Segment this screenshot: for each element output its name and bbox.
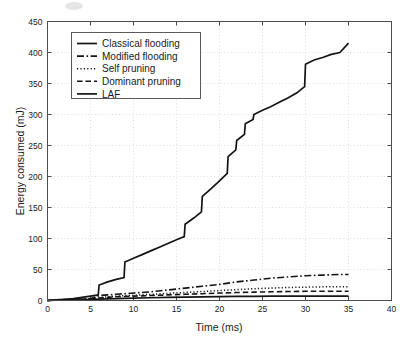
chart-figure: 0510152025303540 05010015020025030035040… bbox=[0, 0, 414, 338]
y-tick-label: 0 bbox=[38, 296, 43, 306]
y-tick-label: 200 bbox=[28, 172, 42, 182]
legend-label: Classical flooding bbox=[102, 38, 180, 49]
x-axis-title: Time (ms) bbox=[196, 321, 243, 333]
x-tick-label: 30 bbox=[301, 304, 311, 314]
x-tick-label: 0 bbox=[45, 304, 50, 314]
scan-artifact bbox=[65, 2, 83, 10]
x-tick-label: 25 bbox=[258, 304, 268, 314]
x-tick-label: 15 bbox=[172, 304, 182, 314]
legend-label: Self pruning bbox=[102, 63, 155, 74]
x-tick-label: 40 bbox=[387, 304, 397, 314]
figure-background bbox=[0, 0, 414, 338]
y-axis-title: Energy consumed (mJ) bbox=[14, 107, 26, 216]
legend-label: LAF bbox=[102, 89, 120, 100]
y-tick-label: 250 bbox=[28, 141, 42, 151]
y-tick-label: 150 bbox=[28, 203, 42, 213]
chart-legend: Classical floodingModified floodingSelf … bbox=[72, 33, 201, 100]
y-tick-label: 350 bbox=[28, 79, 42, 89]
y-tick-label: 300 bbox=[28, 110, 42, 120]
y-tick-label: 100 bbox=[28, 234, 42, 244]
x-tick-label: 5 bbox=[88, 304, 93, 314]
legend-label: Dominant pruning bbox=[102, 76, 181, 87]
x-tick-label: 20 bbox=[215, 304, 225, 314]
x-tick-label: 35 bbox=[344, 304, 354, 314]
legend-label: Modified flooding bbox=[102, 51, 178, 62]
x-tick-label: 10 bbox=[129, 304, 139, 314]
y-tick-label: 50 bbox=[33, 265, 43, 275]
y-tick-label: 450 bbox=[28, 17, 42, 27]
y-tick-label: 400 bbox=[28, 48, 42, 58]
energy-consumed-vs-time-line-chart: 0510152025303540 05010015020025030035040… bbox=[0, 0, 414, 338]
